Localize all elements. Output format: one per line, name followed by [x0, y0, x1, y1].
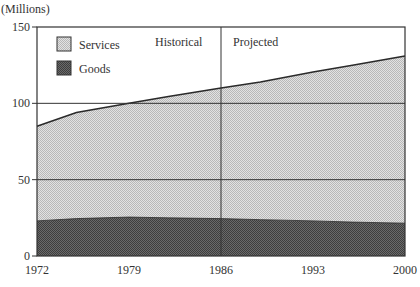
y-axis-units-label: (Millions) — [1, 2, 50, 16]
y-tick-label: 50 — [18, 173, 30, 187]
annotation-historical: Historical — [155, 35, 203, 49]
legend: Services Goods — [57, 37, 120, 76]
y-tick-label: 100 — [12, 96, 30, 110]
legend-label-services: Services — [79, 38, 120, 52]
legend-swatch-services — [57, 37, 71, 51]
legend-swatch-goods — [57, 61, 71, 75]
x-tick-label: 1972 — [25, 263, 49, 277]
legend-label-goods: Goods — [79, 62, 111, 76]
y-tick-label: 150 — [12, 20, 30, 34]
x-tick-label: 2000 — [393, 263, 417, 277]
x-tick-label: 1979 — [117, 263, 141, 277]
x-tick-label: 1993 — [301, 263, 325, 277]
y-tick-label: 0 — [24, 249, 30, 263]
annotation-projected: Projected — [233, 35, 278, 49]
area-chart: 05010015019721979198619932000 (Millions)… — [0, 0, 420, 287]
x-tick-label: 1986 — [209, 263, 233, 277]
